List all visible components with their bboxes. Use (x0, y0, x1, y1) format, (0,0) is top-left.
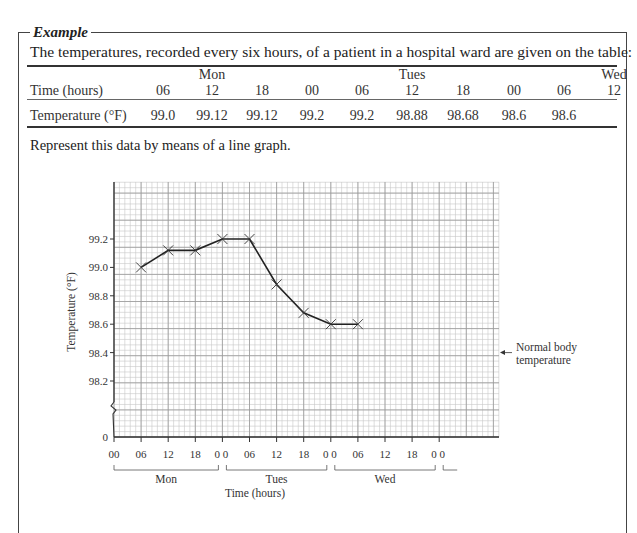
x-tick-label: 12 (380, 448, 391, 460)
x-tick-label: 18 (407, 448, 419, 460)
x-tick-label: 06 (244, 448, 256, 460)
y-tick-label: 99.2 (89, 233, 108, 245)
x-tick-label: 0 0 (323, 448, 337, 460)
x-tick-label: 00 (109, 448, 121, 460)
x-axis-label: Time (hours) (225, 487, 285, 500)
x-tick-label: 06 (352, 448, 364, 460)
y-tick-label: 0 (103, 431, 109, 443)
x-tick-label: 12 (163, 448, 174, 460)
x-tick-label: 06 (136, 448, 148, 460)
x-tick-label: 0 0 (215, 448, 229, 460)
y-tick-label: 98.4 (89, 347, 109, 359)
day-group-label: Mon (155, 473, 177, 485)
x-tick-label: 0 0 (431, 448, 445, 460)
y-axis-label: Temperature (°F) (65, 272, 78, 352)
x-tick-label: 18 (298, 448, 310, 460)
annotation-label: temperature (516, 354, 571, 367)
day-bracket (226, 465, 326, 470)
y-tick-label: 98.2 (89, 375, 108, 387)
y-tick-label: 98.8 (89, 290, 109, 302)
day-group-label: Tues (266, 473, 288, 485)
arrow-left-icon (500, 350, 505, 355)
annotation-label: Normal body (516, 341, 577, 354)
y-tick-label: 98.6 (89, 318, 109, 330)
x-tick-label: 12 (271, 448, 282, 460)
y-tick-label: 99.0 (89, 261, 109, 273)
day-group-label: Wed (375, 473, 396, 485)
x-tick-label: 18 (190, 448, 202, 460)
day-bracket (443, 465, 457, 470)
day-bracket (114, 465, 218, 470)
day-bracket (335, 465, 435, 470)
